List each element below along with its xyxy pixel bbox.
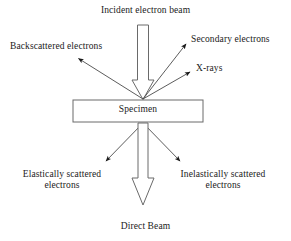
electron-beam-interaction-diagram: Incident electron beam Backscattered ele… bbox=[0, 0, 291, 241]
label-xrays: X-rays bbox=[196, 63, 222, 74]
label-secondary-electrons: Secondary electrons bbox=[191, 34, 270, 45]
label-direct-beam: Direct Beam bbox=[0, 221, 291, 232]
direct-beam-arrow bbox=[132, 123, 154, 205]
label-inelastically-scattered-electrons: Inelastically scattered electrons bbox=[168, 169, 278, 191]
inelastically-scattered-electrons-arrow bbox=[143, 123, 180, 161]
incident-electron-beam-arrow bbox=[132, 25, 154, 100]
label-specimen: Specimen bbox=[73, 104, 203, 115]
secondary-electrons-arrow bbox=[143, 44, 186, 99]
label-elastically-scattered-electrons: Elastically scattered electrons bbox=[7, 169, 117, 191]
label-backscattered-electrons: Backscattered electrons bbox=[10, 41, 102, 52]
label-incident-electron-beam: Incident electron beam bbox=[0, 5, 291, 16]
elastically-scattered-electrons-arrow bbox=[106, 123, 143, 161]
backscattered-electrons-arrow bbox=[79, 59, 144, 100]
